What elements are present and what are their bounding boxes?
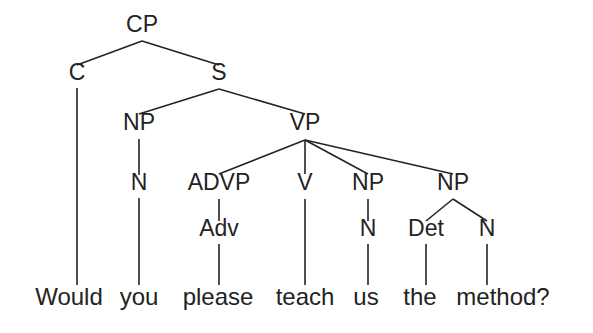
node-adv: Adv xyxy=(199,215,239,241)
edge-cp-to-c xyxy=(77,41,142,65)
node-np-indirect-object: NP xyxy=(352,169,384,195)
leaf-word: you xyxy=(120,283,159,310)
node-det: Det xyxy=(408,215,444,241)
syntax-tree-diagram: CP C S NP VP N ADVP V NP NP Adv N Det N … xyxy=(0,0,593,333)
node-n-you: N xyxy=(131,169,148,195)
node-cp: CP xyxy=(126,11,158,37)
tree-node-labels: CP C S NP VP N ADVP V NP NP Adv N Det N xyxy=(69,11,496,241)
node-s: S xyxy=(211,59,226,85)
node-c: C xyxy=(69,59,86,85)
leaf-word: us xyxy=(353,283,378,310)
edge-cp-to-s xyxy=(142,41,219,65)
node-np-subject: NP xyxy=(123,109,155,135)
syntax-tree-canvas: CP C S NP VP N ADVP V NP NP Adv N Det N … xyxy=(0,0,593,333)
leaf-word: please xyxy=(183,283,254,310)
node-advp: ADVP xyxy=(188,169,251,195)
leaf-word: Would xyxy=(35,283,103,310)
leaf-word: teach xyxy=(276,283,335,310)
tree-edges xyxy=(77,41,487,285)
node-np-direct-object: NP xyxy=(437,169,469,195)
node-n-method: N xyxy=(479,215,496,241)
tree-leaf-words: Would you please teach us the method? xyxy=(35,283,550,310)
node-n-us: N xyxy=(360,215,377,241)
node-vp: VP xyxy=(290,109,321,135)
leaf-word: method? xyxy=(456,283,549,310)
node-v: V xyxy=(297,169,313,195)
leaf-word: the xyxy=(403,283,436,310)
